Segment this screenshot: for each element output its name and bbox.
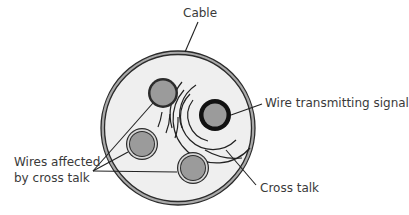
wire-left — [126, 128, 158, 160]
affected-wires-label-line1: Wires affected — [14, 155, 100, 170]
transmitting-wire-label: Wire transmitting signal — [265, 96, 409, 111]
cable-label: Cable — [183, 6, 217, 21]
cable-leader — [185, 22, 198, 52]
cross-talk-label: Cross talk — [260, 181, 319, 196]
wire-transmitting — [199, 99, 231, 131]
affected-wires-label-line2: by cross talk — [14, 171, 90, 186]
wire-bottom — [177, 152, 209, 184]
